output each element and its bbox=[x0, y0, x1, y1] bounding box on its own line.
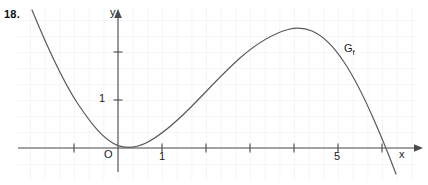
origin-label: O bbox=[104, 148, 113, 160]
x-axis-label: x bbox=[399, 148, 405, 160]
coordinate-plot bbox=[0, 0, 428, 185]
curve-label-main: G bbox=[344, 42, 353, 54]
y-axis-label: y bbox=[110, 6, 116, 18]
plot-grid bbox=[18, 8, 418, 180]
x-tick-label-5: 5 bbox=[334, 150, 340, 162]
x-axis-arrow bbox=[414, 144, 423, 152]
curve-label: Gf bbox=[344, 42, 355, 57]
y-tick-label-1: 1 bbox=[99, 92, 105, 104]
x-tick-label-1: 1 bbox=[159, 150, 165, 162]
curve-label-subscript: f bbox=[353, 48, 355, 57]
exercise-figure: 18. y bbox=[0, 0, 428, 185]
